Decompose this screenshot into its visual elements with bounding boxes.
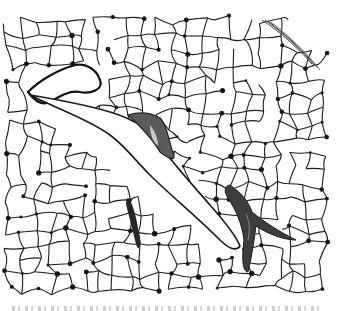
septal-node xyxy=(219,135,221,137)
septal-node xyxy=(93,200,97,204)
septal-node xyxy=(215,182,217,184)
alveolar-septum xyxy=(253,95,266,96)
figure-caption xyxy=(12,305,327,311)
septal-node xyxy=(214,197,218,201)
septal-node xyxy=(71,285,75,289)
septal-node xyxy=(126,255,130,259)
septal-node xyxy=(69,215,72,218)
septal-node xyxy=(280,110,283,113)
septal-node xyxy=(259,168,263,172)
septal-node xyxy=(143,17,147,21)
septal-node xyxy=(176,136,178,138)
septal-node xyxy=(141,69,143,71)
septal-node xyxy=(157,243,160,246)
septal-node xyxy=(326,197,329,200)
septal-node xyxy=(55,272,59,276)
septal-node xyxy=(304,67,308,71)
septal-node xyxy=(242,153,245,156)
septal-node xyxy=(320,188,323,191)
septal-node xyxy=(196,275,200,279)
septal-node xyxy=(5,152,9,156)
septal-node xyxy=(325,51,329,55)
lung-histology-figure xyxy=(0,0,337,311)
septal-node xyxy=(321,121,323,123)
septal-node xyxy=(182,165,184,167)
alveolar-septum xyxy=(159,272,160,291)
septal-node xyxy=(3,269,7,273)
septal-node xyxy=(157,48,160,51)
septal-node xyxy=(38,120,41,123)
septal-node xyxy=(287,224,290,227)
septal-node xyxy=(37,287,40,290)
septal-node xyxy=(22,273,24,275)
septal-node xyxy=(50,232,52,234)
septal-node xyxy=(92,262,95,265)
septal-node xyxy=(279,120,281,122)
septal-node xyxy=(281,44,284,47)
septal-node xyxy=(12,69,14,71)
septal-node xyxy=(216,125,218,127)
septal-node xyxy=(184,18,188,22)
septal-node xyxy=(245,80,247,82)
septal-node xyxy=(321,288,324,291)
alveolar-septum xyxy=(111,275,112,290)
septal-node xyxy=(84,270,88,274)
septal-node xyxy=(266,186,269,189)
septal-node xyxy=(47,64,50,67)
septal-node xyxy=(230,124,233,127)
septal-node xyxy=(138,261,141,264)
septal-node xyxy=(157,289,161,293)
septal-node xyxy=(106,47,110,51)
septal-node xyxy=(173,228,176,231)
septal-node xyxy=(220,111,224,115)
septal-node xyxy=(157,98,160,101)
septal-node xyxy=(289,82,291,84)
septal-node xyxy=(291,92,294,95)
septal-node xyxy=(326,240,330,244)
septal-node xyxy=(64,226,68,230)
septal-node xyxy=(187,286,190,289)
septal-node xyxy=(138,90,141,93)
septal-node xyxy=(115,106,118,109)
septal-node xyxy=(279,64,283,68)
septal-node xyxy=(47,264,49,266)
septal-node xyxy=(321,92,323,94)
septal-node xyxy=(231,256,234,259)
septal-node xyxy=(325,135,329,139)
septal-node xyxy=(10,285,13,288)
septal-node xyxy=(243,166,246,169)
septal-node xyxy=(6,216,10,220)
septal-node xyxy=(217,258,221,262)
septal-node xyxy=(68,262,72,266)
septal-node xyxy=(70,33,74,37)
septal-node xyxy=(50,144,52,146)
septal-node xyxy=(170,272,174,276)
septal-node xyxy=(4,79,8,83)
septal-node xyxy=(84,194,87,197)
septal-node xyxy=(264,142,266,144)
septal-node xyxy=(37,171,41,175)
septal-node xyxy=(189,157,191,159)
septal-node xyxy=(297,129,299,131)
septal-node xyxy=(199,151,201,153)
septal-node xyxy=(228,14,231,17)
septal-node xyxy=(152,232,156,236)
septal-node xyxy=(85,185,88,188)
septal-node xyxy=(17,231,19,233)
septal-node xyxy=(20,216,22,218)
septal-node xyxy=(186,66,189,69)
septal-node xyxy=(221,89,225,93)
septal-node xyxy=(216,287,218,289)
septal-node xyxy=(229,154,233,158)
septal-node xyxy=(22,195,25,198)
septal-node xyxy=(307,239,311,243)
alveolar-septum xyxy=(233,49,234,68)
septal-node xyxy=(35,213,37,215)
septal-node xyxy=(129,229,133,233)
alveolar-septum xyxy=(202,36,203,53)
septal-node xyxy=(276,97,279,100)
septal-node xyxy=(187,108,191,112)
septal-node xyxy=(112,61,116,65)
septal-node xyxy=(41,141,43,143)
septal-node xyxy=(310,152,312,154)
